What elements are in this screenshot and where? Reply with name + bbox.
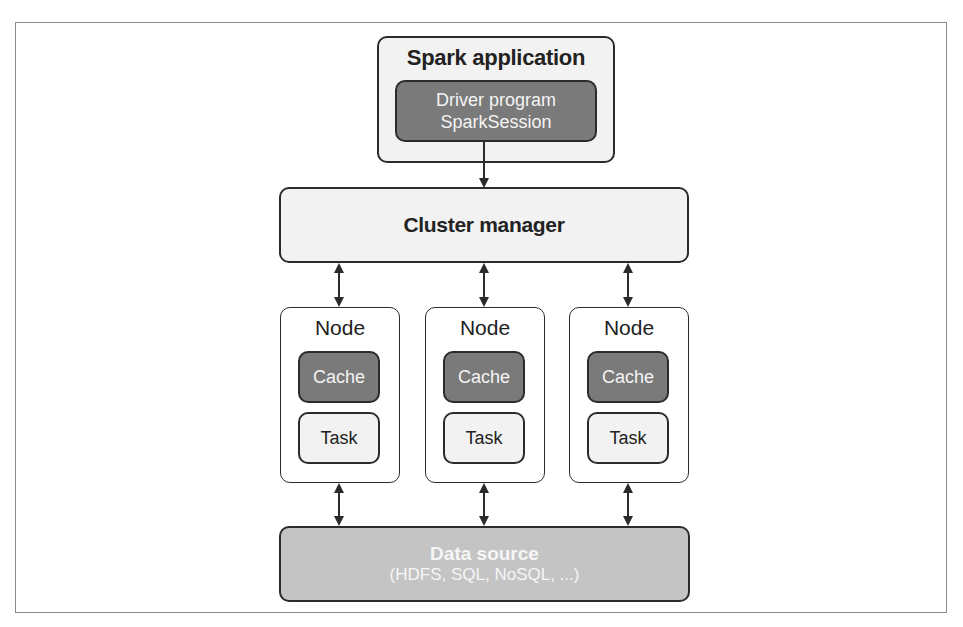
connector-arrows (0, 0, 963, 627)
